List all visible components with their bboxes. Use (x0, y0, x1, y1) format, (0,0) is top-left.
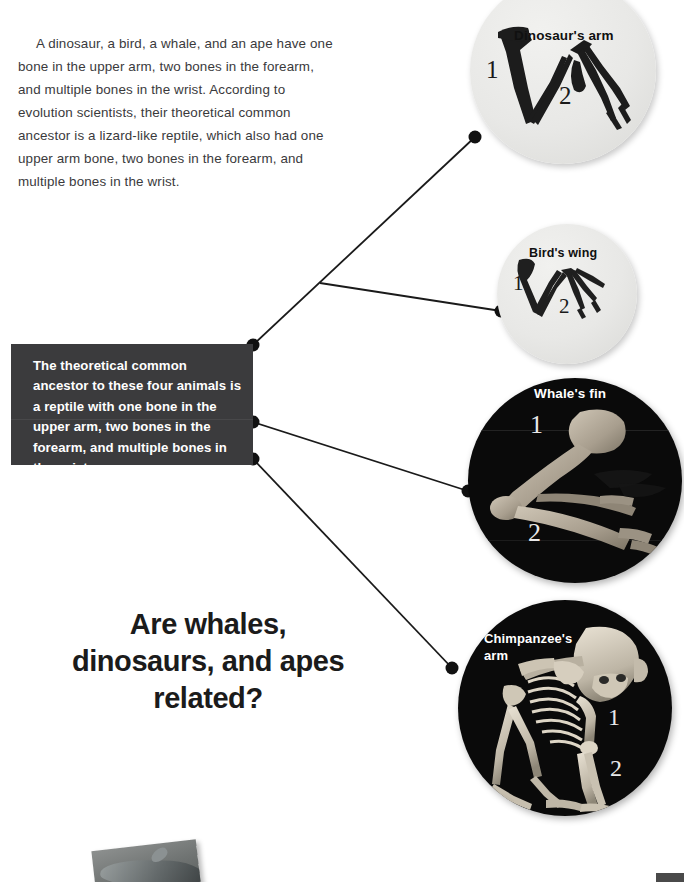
bone-label-chimpanzee-1: 1 (608, 704, 620, 731)
ancestor-callout-text: The theoretical common ancestor to these… (33, 356, 243, 465)
specimen-circle-bird: Bird's wing 1 2 (497, 224, 637, 364)
page-title: Are whales, dinosaurs, and apes related? (58, 606, 358, 717)
specimen-caption-bird: Bird's wing (529, 246, 597, 260)
bone-label-bird-2: 2 (559, 294, 570, 319)
ancestor-callout-box: The theoretical common ancestor to these… (11, 344, 253, 465)
whale-fin-bones-illustration (468, 378, 682, 583)
connector-node-chimpanzee (446, 662, 459, 675)
bone-label-whale-1: 1 (530, 410, 543, 440)
specimen-circle-whale: Whale's fin 1 2 (468, 378, 682, 583)
bone-label-bird-1: 1 (513, 271, 524, 296)
connector-node-dinosaur (469, 131, 482, 144)
specimen-caption-dinosaur: Dinosaur's arm (514, 28, 614, 43)
connector-line-bird (320, 283, 501, 311)
bone-label-dinosaur-2: 2 (559, 82, 572, 110)
corner-crop-marker (656, 873, 684, 882)
connector-line-whale (253, 422, 468, 491)
specimen-caption-chimpanzee: Chimpanzee's arm (484, 630, 580, 664)
bone-label-dinosaur-1: 1 (486, 56, 499, 84)
specimen-circle-chimpanzee: Chimpanzee's arm 1 2 (458, 600, 672, 816)
poster-page: A dinosaur, a bird, a whale, and an ape … (0, 0, 684, 882)
whale-photograph (91, 839, 203, 882)
specimen-caption-whale: Whale's fin (534, 386, 606, 401)
bone-label-chimpanzee-2: 2 (610, 755, 622, 782)
specimen-circle-dinosaur: Dinosaur's arm 1 2 (470, 0, 656, 164)
intro-paragraph: A dinosaur, a bird, a whale, and an ape … (18, 32, 338, 193)
whale-body-shape (100, 860, 203, 882)
bone-label-whale-2: 2 (528, 518, 541, 548)
